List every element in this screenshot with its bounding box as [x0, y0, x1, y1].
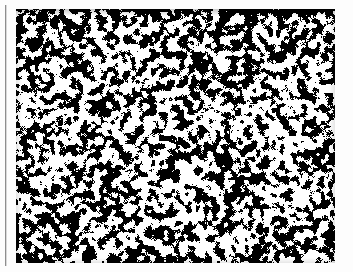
halftone-texture-canvas	[16, 9, 335, 263]
vertical-rule-shadow	[6, 5, 7, 266]
scanned-page: Scanned page fragment showing a single f…	[0, 0, 353, 272]
halftone-image-plate	[16, 9, 335, 263]
